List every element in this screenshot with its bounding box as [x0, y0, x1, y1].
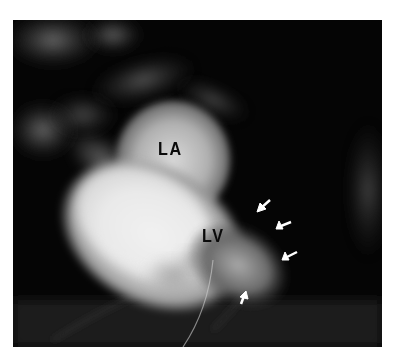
arrow-icon	[276, 221, 291, 229]
arrow-icon	[282, 252, 297, 260]
arrow-icon	[240, 291, 248, 304]
arrows-overlay	[13, 20, 382, 347]
arrow-icon	[257, 200, 270, 212]
angiogram-image: LA LV	[13, 20, 382, 347]
